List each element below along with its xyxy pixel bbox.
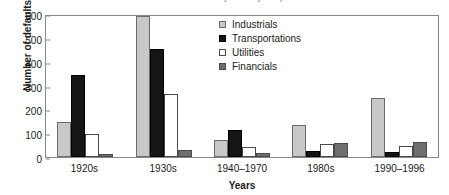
- legend-label: Transportations: [232, 33, 301, 44]
- y-tick-label: 300: [25, 82, 42, 93]
- bar-financials-1990-1996[interactable]: [413, 142, 427, 157]
- bar-transportations-1990-1996[interactable]: [385, 152, 399, 157]
- bar-utilities-1980s[interactable]: [320, 144, 334, 157]
- y-tick-label: 400: [25, 58, 42, 69]
- bar-group-1930s: [124, 16, 202, 157]
- bar-financials-1980s[interactable]: [334, 143, 348, 157]
- x-tick-label-1940-1970: 1940–1970: [203, 163, 282, 174]
- bar-utilities-1920s[interactable]: [85, 134, 99, 157]
- bar-transportations-1980s[interactable]: [306, 151, 320, 157]
- legend-swatch-utilities-icon: [219, 49, 226, 56]
- bar-transportations-1940-1970[interactable]: [228, 130, 242, 157]
- y-tick-label: 600: [25, 11, 42, 22]
- legend-item-transportations[interactable]: Transportations: [219, 31, 301, 45]
- legend-swatch-financials-icon: [219, 63, 226, 70]
- x-tick-label-1980s: 1980s: [281, 163, 360, 174]
- legend-label: Financials: [232, 61, 277, 72]
- bar-group-1990-1996: [360, 16, 438, 157]
- bar-transportations-1920s[interactable]: [71, 75, 85, 157]
- y-tick-mark: [46, 159, 50, 160]
- bar-transportations-1930s[interactable]: [150, 49, 164, 157]
- bar-industrials-1940-1970[interactable]: [214, 140, 228, 157]
- legend-item-financials[interactable]: Financials: [219, 59, 301, 73]
- bar-financials-1930s[interactable]: [178, 150, 192, 157]
- x-axis-ticks: 1920s1930s1940–19701980s1990–1996: [45, 163, 439, 174]
- legend-label: Industrials: [232, 19, 278, 30]
- chart-legend: IndustrialsTransportationsUtilitiesFinan…: [219, 17, 301, 73]
- bar-chart-figure: Number of defaults by industry and perio…: [0, 0, 449, 195]
- bar-financials-1940-1970[interactable]: [256, 153, 270, 157]
- legend-label: Utilities: [232, 47, 264, 58]
- x-tick-label-1990-1996: 1990–1996: [360, 163, 439, 174]
- x-tick-label-1930s: 1930s: [124, 163, 203, 174]
- legend-item-industrials[interactable]: Industrials: [219, 17, 301, 31]
- y-tick-label: 200: [25, 106, 42, 117]
- bar-utilities-1930s[interactable]: [164, 94, 178, 157]
- y-tick-label: 500: [25, 34, 42, 45]
- y-tick-label: 0: [36, 154, 42, 165]
- legend-swatch-transportations-icon: [219, 35, 226, 42]
- legend-swatch-industrials-icon: [219, 21, 226, 28]
- bar-utilities-1990-1996[interactable]: [399, 146, 413, 157]
- bar-industrials-1930s[interactable]: [136, 16, 150, 157]
- bar-utilities-1940-1970[interactable]: [242, 147, 256, 157]
- bar-group-1920s: [46, 16, 124, 157]
- chart-title: Number of defaults by industry and perio…: [0, 0, 449, 2]
- x-axis-title: Years: [45, 180, 439, 191]
- legend-item-utilities[interactable]: Utilities: [219, 45, 301, 59]
- x-tick-label-1920s: 1920s: [45, 163, 124, 174]
- bar-industrials-1990-1996[interactable]: [371, 98, 385, 157]
- bar-industrials-1980s[interactable]: [292, 125, 306, 157]
- y-tick-label: 100: [25, 130, 42, 141]
- bar-financials-1920s[interactable]: [99, 154, 113, 157]
- bar-industrials-1920s[interactable]: [57, 122, 71, 157]
